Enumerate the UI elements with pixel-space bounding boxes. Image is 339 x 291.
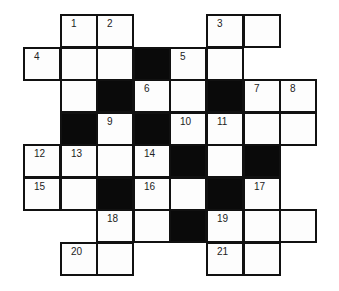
clue-number: 10 <box>180 117 191 127</box>
black-square <box>206 177 244 211</box>
crossword-cell[interactable] <box>60 47 98 81</box>
clue-number: 8 <box>290 84 296 94</box>
clue-number: 3 <box>217 19 223 29</box>
crossword-cell[interactable]: 19 <box>206 209 244 243</box>
crossword-cell[interactable] <box>169 177 207 211</box>
black-square <box>60 112 98 146</box>
clue-number: 4 <box>34 52 40 62</box>
crossword-cell[interactable]: 12 <box>23 144 61 178</box>
clue-number: 17 <box>254 182 265 192</box>
crossword-cell[interactable]: 7 <box>243 79 281 113</box>
crossword-cell[interactable]: 16 <box>133 177 171 211</box>
clue-number: 21 <box>217 247 228 257</box>
crossword-cell[interactable]: 6 <box>133 79 171 113</box>
crossword-cell[interactable]: 3 <box>206 14 244 48</box>
crossword-cell[interactable]: 20 <box>60 242 98 276</box>
crossword-cell[interactable] <box>243 209 281 243</box>
crossword-cell[interactable] <box>96 144 134 178</box>
crossword-cell[interactable] <box>279 209 317 243</box>
clue-number: 5 <box>180 52 186 62</box>
black-square <box>96 79 134 113</box>
crossword-cell[interactable]: 15 <box>23 177 61 211</box>
crossword-cell[interactable]: 4 <box>23 47 61 81</box>
clue-number: 20 <box>71 247 82 257</box>
crossword-cell[interactable] <box>133 209 171 243</box>
clue-number: 6 <box>144 84 150 94</box>
crossword-cell[interactable] <box>243 242 281 276</box>
black-square <box>133 112 171 146</box>
clue-number: 1 <box>71 19 77 29</box>
crossword-cell[interactable] <box>96 47 134 81</box>
clue-number: 9 <box>107 117 113 127</box>
crossword-cell[interactable] <box>243 112 281 146</box>
crossword-cell[interactable]: 14 <box>133 144 171 178</box>
clue-number: 16 <box>144 182 155 192</box>
crossword-cell[interactable]: 8 <box>279 79 317 113</box>
clue-number: 12 <box>34 149 45 159</box>
clue-number: 13 <box>71 149 82 159</box>
clue-number: 2 <box>107 19 113 29</box>
black-square <box>169 209 207 243</box>
black-square <box>96 177 134 211</box>
black-square <box>169 144 207 178</box>
crossword-cell[interactable] <box>243 14 281 48</box>
crossword-cell[interactable]: 9 <box>96 112 134 146</box>
crossword-cell[interactable] <box>279 112 317 146</box>
black-square <box>243 144 281 178</box>
crossword-cell[interactable] <box>60 79 98 113</box>
crossword-cell[interactable] <box>96 242 134 276</box>
crossword-cell[interactable] <box>206 144 244 178</box>
clue-number: 18 <box>107 214 118 224</box>
crossword-cell[interactable]: 21 <box>206 242 244 276</box>
crossword-cell[interactable] <box>206 47 244 81</box>
crossword-cell[interactable] <box>60 177 98 211</box>
crossword-cell[interactable]: 13 <box>60 144 98 178</box>
clue-number: 11 <box>217 117 227 127</box>
crossword-cell[interactable]: 17 <box>243 177 281 211</box>
clue-number: 15 <box>34 182 45 192</box>
crossword-cell[interactable]: 5 <box>169 47 207 81</box>
crossword-cell[interactable]: 18 <box>96 209 134 243</box>
clue-number: 19 <box>217 214 228 224</box>
clue-number: 7 <box>254 84 260 94</box>
black-square <box>133 47 171 81</box>
crossword-cell[interactable]: 1 <box>60 14 98 48</box>
crossword-grid: 123456789101112131415161718192021 <box>24 15 317 275</box>
black-square <box>206 79 244 113</box>
crossword-cell[interactable]: 10 <box>169 112 207 146</box>
crossword-cell[interactable] <box>169 79 207 113</box>
crossword-cell[interactable]: 2 <box>96 14 134 48</box>
clue-number: 14 <box>144 149 155 159</box>
crossword-cell[interactable]: 11 <box>206 112 244 146</box>
